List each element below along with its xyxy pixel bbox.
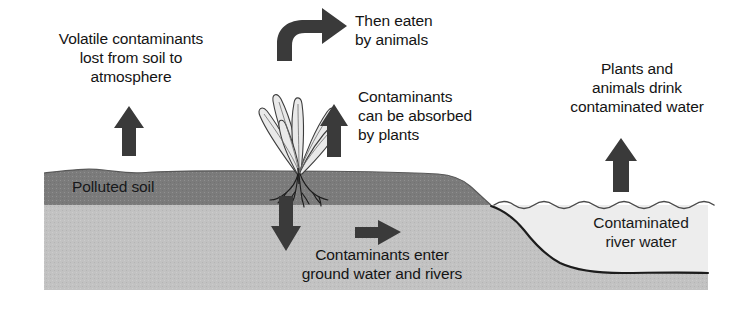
arrow-volatile-up	[114, 106, 144, 156]
label-polluted-soil: Polluted soil	[72, 178, 154, 196]
label-drink-contaminated-water: Plants and animals drink contaminated wa…	[547, 60, 727, 117]
label-contaminated-river-water: Contaminated river water	[561, 214, 721, 252]
label-absorbed-by-plants: Contaminants can be absorbed by plants	[358, 88, 538, 145]
label-volatile-contaminants: Volatile contaminants lost from soil to …	[16, 30, 246, 87]
arrow-eaten-curved	[277, 8, 347, 61]
arrow-drink-up	[605, 138, 637, 192]
label-then-eaten: Then eaten by animals	[355, 12, 505, 50]
label-ground-water: Contaminants enter ground water and rive…	[262, 246, 502, 284]
diagram-canvas: Volatile contaminants lost from soil to …	[0, 0, 741, 310]
